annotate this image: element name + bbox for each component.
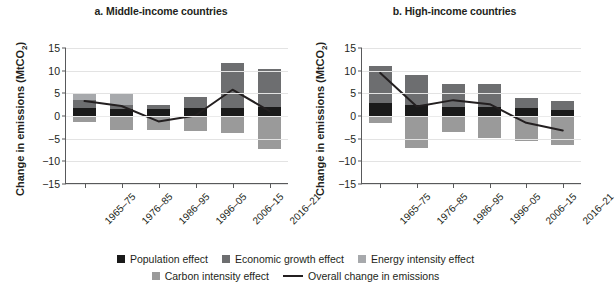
legend-item-energy-intensity-effect: Energy intensity effect bbox=[358, 253, 474, 265]
x-tick-mark-a-4 bbox=[233, 184, 234, 188]
y-tick-label-a-10: 10 bbox=[48, 65, 60, 77]
legend-line-swatch-icon bbox=[283, 275, 303, 277]
legend-item-label: Overall change in emissions bbox=[308, 270, 439, 282]
y-tick-mark-a-15 bbox=[62, 48, 66, 49]
y-tick-label-a--10: −10 bbox=[42, 155, 60, 167]
y-tick-mark-b-10 bbox=[358, 70, 362, 71]
y-tick-mark-a-0 bbox=[62, 116, 66, 117]
y-tick-mark-a-10 bbox=[62, 70, 66, 71]
legend-color-swatch-icon bbox=[152, 272, 160, 280]
legend-item-population-effect: Population effect bbox=[117, 253, 208, 265]
plot-area-b: 1965–751976–851986–951996–052006–152016–… bbox=[362, 48, 581, 184]
legend-color-swatch-icon bbox=[222, 255, 230, 263]
x-tick-mark-a-5 bbox=[270, 184, 271, 188]
y-tick-mark-b-5 bbox=[358, 93, 362, 94]
y-tick-label-b-0: 0 bbox=[350, 110, 356, 122]
legend-item-label: Energy intensity effect bbox=[371, 253, 474, 265]
panel-title-a: a. Middle-income countries bbox=[0, 5, 300, 17]
gridline-b-0 bbox=[362, 116, 581, 117]
y-tick-label-b-5: 5 bbox=[350, 87, 356, 99]
gridline-a-10 bbox=[66, 71, 288, 72]
panel-middle-income: a. Middle-income countries Change in emi… bbox=[0, 0, 300, 250]
y-tick-mark-a--10 bbox=[62, 161, 66, 162]
y-tick-label-a--5: −5 bbox=[48, 133, 60, 145]
panel-high-income: b. High-income countries Change in emiss… bbox=[300, 0, 591, 250]
gridline-a--15 bbox=[66, 184, 288, 185]
y-tick-label-a-15: 15 bbox=[48, 42, 60, 54]
x-axis-label-b-2: 1986–95 bbox=[471, 191, 506, 226]
y-tick-mark-a--15 bbox=[62, 184, 66, 185]
y-axis-label-b-text: Change in emissions (MtCO bbox=[314, 50, 326, 196]
overall-change-polyline-b bbox=[380, 73, 563, 131]
y-axis-label-b-suffix: ) bbox=[314, 42, 326, 46]
x-tick-mark-a-2 bbox=[159, 184, 160, 188]
y-tick-mark-a-5 bbox=[62, 93, 66, 94]
legend-item-carbon-intensity-effect: Carbon intensity effect bbox=[152, 270, 269, 282]
x-tick-mark-a-1 bbox=[122, 184, 123, 188]
x-axis-label-b-5: 2016–21 bbox=[580, 191, 615, 226]
x-axis-label-b-4: 2006–15 bbox=[544, 191, 579, 226]
x-axis-label-b-1: 1976–85 bbox=[434, 191, 469, 226]
y-tick-mark-a--5 bbox=[62, 138, 66, 139]
y-axis-label-a-suffix: ) bbox=[14, 42, 26, 46]
x-tick-mark-b-3 bbox=[490, 184, 491, 188]
y-axis-label-a-text: Change in emissions (MtCO bbox=[14, 50, 26, 196]
y-tick-mark-b-0 bbox=[358, 116, 362, 117]
gridline-b--5 bbox=[362, 139, 581, 140]
x-tick-mark-b-2 bbox=[453, 184, 454, 188]
x-tick-mark-b-1 bbox=[417, 184, 418, 188]
gridline-a-15 bbox=[66, 48, 288, 49]
x-tick-mark-b-0 bbox=[380, 184, 381, 188]
y-tick-mark-b--5 bbox=[358, 138, 362, 139]
y-axis-label-b: Change in emissions (MtCO2) bbox=[314, 42, 329, 196]
figure-legend: Population effectEconomic growth effectE… bbox=[0, 250, 591, 299]
x-tick-mark-a-0 bbox=[85, 184, 86, 188]
gridline-b-15 bbox=[362, 48, 581, 49]
x-axis-label-b-0: 1965–75 bbox=[398, 191, 433, 226]
gridline-b--10 bbox=[362, 161, 581, 162]
y-tick-label-b--10: −10 bbox=[338, 155, 356, 167]
y-tick-label-b--15: −15 bbox=[338, 178, 356, 190]
y-tick-label-a-5: 5 bbox=[54, 87, 60, 99]
gridline-a--5 bbox=[66, 139, 288, 140]
legend-item-label: Carbon intensity effect bbox=[165, 270, 269, 282]
y-tick-mark-b-15 bbox=[358, 48, 362, 49]
y-axis-label-a-sub: 2 bbox=[20, 45, 29, 49]
gridline-b-5 bbox=[362, 93, 581, 94]
legend-item-label: Population effect bbox=[130, 253, 208, 265]
y-tick-mark-b--15 bbox=[358, 184, 362, 185]
plot-area-a: 1965–751976–851986–951996–052006–152016–… bbox=[66, 48, 288, 184]
x-tick-mark-b-5 bbox=[563, 184, 564, 188]
gridline-a-5 bbox=[66, 93, 288, 94]
x-axis-label-a-2: 1986–95 bbox=[176, 191, 211, 226]
gridline-a-0 bbox=[66, 116, 288, 117]
y-axis-label-a: Change in emissions (MtCO2) bbox=[14, 42, 29, 196]
legend-item-overall-change-in-emissions: Overall change in emissions bbox=[283, 270, 439, 282]
y-tick-label-b-15: 15 bbox=[344, 42, 356, 54]
x-axis-label-a-1: 1976–85 bbox=[139, 191, 174, 226]
y-tick-label-a--15: −15 bbox=[42, 178, 60, 190]
gridline-b-10 bbox=[362, 71, 581, 72]
x-axis-label-a-0: 1965–75 bbox=[102, 191, 137, 226]
panel-title-b: b. High-income countries bbox=[300, 5, 591, 17]
y-tick-label-b--5: −5 bbox=[344, 133, 356, 145]
legend-row-2: Carbon intensity effectOverall change in… bbox=[0, 270, 591, 282]
x-axis-label-a-4: 2006–15 bbox=[250, 191, 285, 226]
y-axis-label-b-sub: 2 bbox=[320, 45, 329, 49]
legend-color-swatch-icon bbox=[358, 255, 366, 263]
x-axis-label-a-3: 1996–05 bbox=[213, 191, 248, 226]
legend-color-swatch-icon bbox=[117, 255, 125, 263]
legend-item-label: Economic growth effect bbox=[235, 253, 344, 265]
y-tick-label-a-0: 0 bbox=[54, 110, 60, 122]
gridline-b--15 bbox=[362, 184, 581, 185]
legend-row-1: Population effectEconomic growth effectE… bbox=[0, 253, 591, 265]
gridline-a--10 bbox=[66, 161, 288, 162]
chart-panels: a. Middle-income countries Change in emi… bbox=[0, 0, 591, 250]
x-axis-label-b-3: 1996–05 bbox=[507, 191, 542, 226]
y-tick-label-b-10: 10 bbox=[344, 65, 356, 77]
x-tick-mark-a-3 bbox=[196, 184, 197, 188]
x-tick-mark-b-4 bbox=[526, 184, 527, 188]
legend-item-economic-growth-effect: Economic growth effect bbox=[222, 253, 344, 265]
y-tick-mark-b--10 bbox=[358, 161, 362, 162]
